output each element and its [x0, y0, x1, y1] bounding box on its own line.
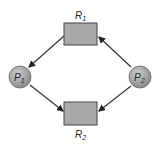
resource-r2 — [64, 102, 97, 125]
resource-r1-label: R1 — [75, 10, 86, 22]
edge-r1-p1 — [29, 36, 64, 67]
resource-allocation-graph: R1 R2 P1 P2 — [0, 0, 159, 150]
resource-r1 — [64, 23, 97, 45]
edge-p1-r2 — [30, 85, 63, 111]
edge-p2-r2 — [99, 86, 131, 111]
resource-r2-label: R2 — [75, 129, 86, 141]
edge-p2-r1 — [99, 37, 131, 67]
